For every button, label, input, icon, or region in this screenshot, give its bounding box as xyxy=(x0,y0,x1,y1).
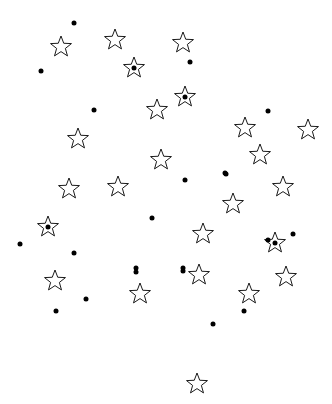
star-marker xyxy=(186,373,208,395)
dot-marker xyxy=(183,95,188,100)
dot-marker xyxy=(273,241,278,246)
dot-marker xyxy=(223,171,228,176)
star-marker xyxy=(129,283,151,305)
star-marker xyxy=(249,144,271,166)
star-marker xyxy=(44,270,66,292)
star-marker xyxy=(222,193,244,215)
dot-marker xyxy=(211,322,216,327)
dot-marker xyxy=(54,309,59,314)
dot-marker xyxy=(266,238,271,243)
star-marker xyxy=(58,178,80,200)
star-marker xyxy=(146,99,168,121)
dot-marker xyxy=(291,232,296,237)
dot-marker xyxy=(132,66,137,71)
dot-marker xyxy=(92,108,97,113)
star-marker xyxy=(192,223,214,245)
star-marker xyxy=(234,117,256,139)
dot-marker xyxy=(72,251,77,256)
star-marker xyxy=(297,119,319,141)
star-marker xyxy=(275,266,297,288)
star-marker xyxy=(67,128,89,150)
star-marker xyxy=(104,29,126,51)
dot-marker xyxy=(134,270,139,275)
star-marker xyxy=(172,32,194,54)
dot-marker xyxy=(150,216,155,221)
dot-marker xyxy=(183,178,188,183)
star-marker xyxy=(150,149,172,171)
dot-marker xyxy=(46,225,51,230)
scatter-plot-canvas xyxy=(0,0,332,404)
star-marker xyxy=(188,264,210,286)
dot-marker xyxy=(266,109,271,114)
star-marker xyxy=(50,36,72,58)
star-marker xyxy=(272,176,294,198)
dot-marker xyxy=(242,309,247,314)
dot-marker xyxy=(72,21,77,26)
dot-marker xyxy=(188,60,193,65)
dot-marker xyxy=(39,69,44,74)
star-marker xyxy=(107,176,129,198)
dot-marker xyxy=(18,242,23,247)
dot-marker xyxy=(84,297,89,302)
star-marker xyxy=(238,283,260,305)
dot-marker xyxy=(181,269,186,274)
